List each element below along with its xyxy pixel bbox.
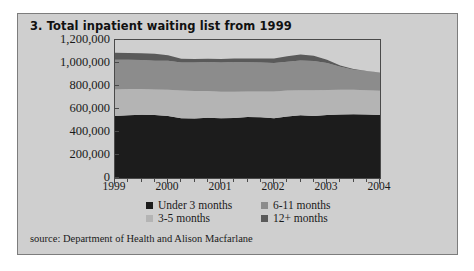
y-axis-tick-label: 1,200,000 [24, 33, 110, 46]
y-axis-tick-label: 0 [24, 171, 110, 184]
x-axis-tick-major [220, 178, 221, 184]
legend-item: 6-11 months [261, 199, 376, 211]
stacked-area-series [115, 40, 380, 178]
legend-label: 6-11 months [273, 199, 330, 211]
y-axis-tick-label: 200,000 [24, 148, 110, 161]
x-axis-tick-minor [233, 178, 234, 182]
x-axis-tick-major [273, 178, 274, 184]
x-axis-tick-minor [194, 178, 195, 182]
y-axis-tick [114, 85, 119, 86]
area-band-3-5-months [115, 89, 380, 119]
y-axis-tick-label: 400,000 [24, 125, 110, 138]
x-axis-tick-minor [141, 178, 142, 182]
x-axis-tick-minor [207, 178, 208, 182]
legend-row: Under 3 months6-11 months [146, 199, 376, 211]
y-axis-tick [114, 131, 119, 132]
legend-row: 3-5 months12+ months [146, 212, 376, 224]
plot-area [114, 39, 381, 179]
y-axis-tick [114, 108, 119, 109]
legend-swatch-icon [146, 202, 153, 209]
y-axis-tick [114, 39, 119, 40]
x-axis-tick-major [326, 178, 327, 184]
x-axis-tick-minor [180, 178, 181, 182]
legend-swatch-icon [146, 215, 153, 222]
source-note: source: Department of Health and Alison … [30, 233, 253, 244]
x-axis-tick-minor [339, 178, 340, 182]
area-band-6-11-months [115, 60, 380, 92]
legend-item: 12+ months [261, 212, 376, 224]
y-axis-tick-label: 1,000,000 [24, 56, 110, 69]
x-axis-tick-minor [353, 178, 354, 182]
x-axis-tick-major [379, 178, 380, 184]
legend-item: 3-5 months [146, 212, 261, 224]
y-axis-labels: 1,200,0001,000,000800,000600,000400,0002… [18, 39, 110, 177]
chart-title: 3. Total inpatient waiting list from 199… [30, 19, 292, 33]
x-axis-tick-minor [154, 178, 155, 182]
x-axis-tick-major [167, 178, 168, 184]
x-axis-tick-minor [313, 178, 314, 182]
chart-legend: Under 3 months6-11 months3-5 months12+ m… [146, 199, 376, 225]
legend-label: 3-5 months [158, 212, 210, 224]
x-axis-labels: 199920002001200220032004 [114, 180, 380, 196]
x-axis-tick-minor [127, 178, 128, 182]
x-axis-tick-minor [260, 178, 261, 182]
x-axis-tick-minor [366, 178, 367, 182]
y-axis-tick-label: 800,000 [24, 79, 110, 92]
legend-item: Under 3 months [146, 199, 261, 211]
legend-swatch-icon [261, 215, 268, 222]
area-band-under-3-months [115, 114, 380, 178]
chart-card: 3. Total inpatient waiting list from 199… [17, 13, 458, 255]
y-axis-tick [114, 154, 119, 155]
x-axis-tick-minor [247, 178, 248, 182]
x-axis-tick-major [114, 178, 115, 184]
y-axis-tick-label: 600,000 [24, 102, 110, 115]
x-axis-tick-minor [300, 178, 301, 182]
legend-label: Under 3 months [158, 199, 232, 211]
y-axis-tick [114, 62, 119, 63]
legend-swatch-icon [261, 202, 268, 209]
x-axis-tick-minor [286, 178, 287, 182]
legend-label: 12+ months [273, 212, 328, 224]
